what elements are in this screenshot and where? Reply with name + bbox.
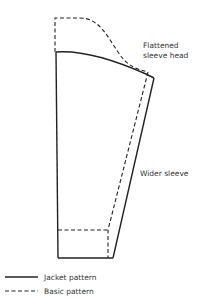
jacket-underarm-seam — [113, 78, 154, 258]
legend: Jacket pattern Basic pattern — [5, 273, 97, 296]
legend-label-jacket: Jacket pattern — [43, 273, 97, 282]
jacket-pattern-outline — [56, 52, 154, 258]
legend-label-basic: Basic pattern — [44, 287, 94, 296]
sleeve-head-label-line1: Flattened — [143, 41, 179, 50]
basic-sleeve-head-curve — [55, 18, 148, 72]
basic-underarm-seam — [108, 72, 148, 258]
sleeve-head-label-line2: sleeve head — [143, 51, 189, 60]
basic-pattern-outline — [55, 18, 148, 258]
sleeve-pattern-diagram: Flattened sleeve head Wider sleeve Jacke… — [0, 0, 204, 300]
wider-sleeve-label: Wider sleeve — [140, 169, 189, 178]
jacket-sleeve-head-curve — [56, 52, 154, 78]
jacket-back-seam — [56, 52, 58, 258]
